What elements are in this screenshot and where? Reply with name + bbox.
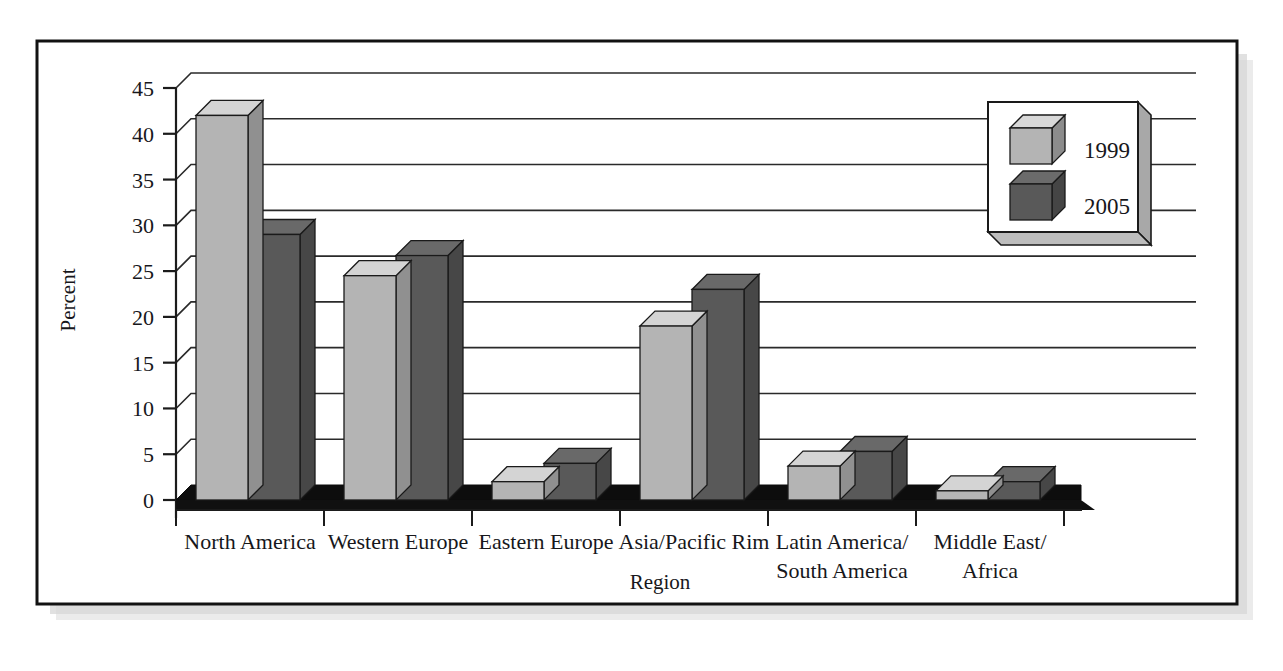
bar-chart: 051015202530354045 North AmericaWestern … — [0, 0, 1283, 671]
floor-front — [176, 500, 1095, 510]
y-axis-tick-label: 20 — [132, 305, 154, 330]
y-axis-tick-label: 5 — [143, 442, 154, 467]
figure-root: 051015202530354045 North AmericaWestern … — [0, 0, 1283, 671]
bar-group — [344, 241, 463, 500]
legend-swatch-front — [1010, 128, 1052, 164]
bar-1999 — [196, 100, 263, 500]
x-axis-category-label: South America — [776, 558, 908, 583]
y-axis-tick-label: 35 — [132, 168, 154, 193]
bar-1999 — [492, 467, 559, 500]
y-axis-tick-label: 25 — [132, 259, 154, 284]
y-axis-tick-label: 30 — [132, 213, 154, 238]
x-axis-category-label: Western Europe — [328, 529, 469, 554]
y-axis-tick-label: 15 — [132, 351, 154, 376]
bar-1999 — [640, 311, 707, 500]
legend-box-side — [1138, 102, 1151, 245]
legend[interactable]: 19992005 — [988, 102, 1151, 245]
y-axis-title: Percent — [56, 268, 80, 331]
legend-label: 2005 — [1084, 194, 1130, 219]
x-axis-category-label: Asia/Pacific Rim — [619, 529, 770, 554]
x-axis-category-label: Eastern Europe — [479, 529, 614, 554]
x-axis-category-label: Africa — [962, 558, 1018, 583]
bar-1999 — [344, 261, 411, 500]
legend-swatch-front — [1010, 184, 1052, 220]
y-axis-tick-label: 0 — [143, 488, 154, 513]
y-axis-tick-label: 45 — [132, 76, 154, 101]
legend-label: 1999 — [1084, 138, 1130, 163]
y-axis-tick-label: 10 — [132, 396, 154, 421]
bar-1999 — [788, 451, 855, 500]
x-axis-category-label: North America — [184, 529, 316, 554]
y-axis-tick-label: 40 — [132, 122, 154, 147]
legend-box-bottom — [988, 232, 1151, 245]
x-axis-title: Region — [630, 570, 691, 594]
x-axis-category-label: Latin America/ — [776, 529, 909, 554]
x-axis-category-label: Middle East/ — [933, 529, 1047, 554]
